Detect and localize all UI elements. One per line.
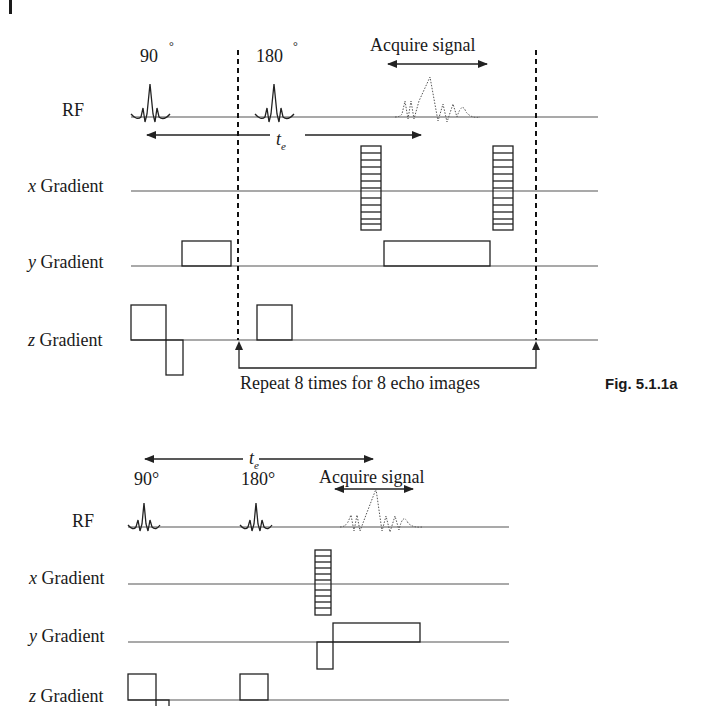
fig-a-x-label: x Gradient bbox=[27, 176, 103, 196]
fig-a-z-rephase-lobe bbox=[166, 340, 183, 375]
fig-b-y-readout-lobe bbox=[333, 623, 420, 642]
fig-a-acquire-label: Acquire signal bbox=[370, 35, 475, 55]
fig-a-caption: Fig. 5.1.1a bbox=[605, 375, 678, 392]
fig-a-repeat-bracket bbox=[239, 348, 536, 368]
fig-b-rf-label: RF bbox=[72, 511, 94, 531]
fig-a-x-readout-stack-1 bbox=[361, 146, 381, 230]
fig-b-z-label: z Gradient bbox=[28, 686, 104, 706]
fig-a-y-prephase-lobe bbox=[182, 241, 231, 266]
fig-a-x-readout-stack-2 bbox=[493, 146, 513, 230]
fig-a-180-label: 180 bbox=[256, 46, 283, 66]
fig-b-z-slice-select-lobe bbox=[128, 674, 156, 700]
fig-a-echo-signal bbox=[395, 77, 480, 122]
fig-b-180-label: 180° bbox=[241, 469, 275, 489]
fig-a-90-label: 90 bbox=[140, 46, 158, 66]
fig-a-z-label: z Gradient bbox=[27, 330, 103, 350]
fig-a-repeat-label: Repeat 8 times for 8 echo images bbox=[240, 373, 480, 393]
fig-b-x-readout-stack bbox=[315, 550, 331, 615]
fig-b-x-label: x Gradient bbox=[28, 568, 104, 588]
fig-b-te-label: te bbox=[249, 448, 259, 471]
figure-a: 90 ° 180 ° Acquire signal RF x Gradient … bbox=[26, 35, 678, 393]
fig-b-echo-signal bbox=[340, 489, 422, 532]
fig-a-z-180-lobe bbox=[257, 305, 292, 340]
fig-a-y-readout-lobe bbox=[384, 241, 490, 266]
fig-a-90-degree: ° bbox=[169, 39, 174, 53]
fig-a-repeat-arrowhead-right bbox=[532, 341, 540, 350]
fig-a-te-label: te bbox=[276, 129, 286, 152]
fig-b-y-label: y Gradient bbox=[27, 626, 104, 646]
fig-a-rf-180-pulse bbox=[255, 84, 294, 122]
fig-a-y-label: y Gradient bbox=[26, 252, 103, 272]
fig-b-z-rephase-lobe bbox=[156, 700, 169, 706]
fig-a-180-degree: ° bbox=[293, 39, 298, 53]
fig-b-z-180-lobe bbox=[240, 674, 268, 700]
fig-a-repeat-arrowhead-left bbox=[235, 341, 243, 350]
pulse-sequence-figures: 90 ° 180 ° Acquire signal RF x Gradient … bbox=[0, 0, 704, 706]
figure-b: te 90° 180° Acquire signal RF x Gradient… bbox=[27, 448, 509, 706]
fig-b-y-dephase-lobe bbox=[317, 642, 333, 669]
fig-a-rf-label: RF bbox=[62, 100, 84, 120]
fig-b-90-label: 90° bbox=[134, 469, 159, 489]
fig-a-rf-90-pulse bbox=[131, 84, 170, 122]
fig-b-acquire-label: Acquire signal bbox=[319, 467, 424, 487]
fig-a-z-slice-select-lobe bbox=[131, 305, 166, 340]
